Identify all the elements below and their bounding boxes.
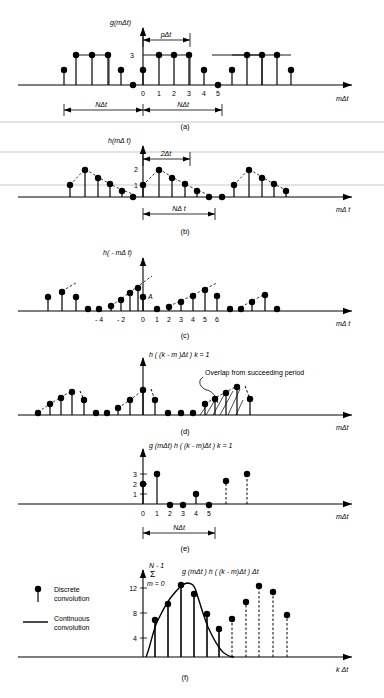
panel-a-xtick-4: 4 [202,90,206,97]
panel-e-stems [143,474,196,504]
panel-b-ytick-2: 2 [134,166,138,173]
panel-c-y-arrow [140,257,146,266]
legend-discrete-line1: Discrete [54,586,80,593]
panel-c-xtick-2: 2 [167,316,171,323]
panel-b-stems-right [234,170,286,197]
panel-e-ytick-1: 1 [133,491,137,498]
panel-f-sum-upper: N - 1 [149,562,164,569]
panel-e-caption: (e) [180,544,190,553]
panel-a-points-mid [140,52,221,88]
legend-discrete-symbol [35,586,41,602]
panel-b-points-right [231,167,289,194]
panel-c: h( - mΔ t) mΔ t A [18,249,352,340]
panel-a-xtick-3: 3 [187,90,191,97]
panel-c-xtick-1: 1 [155,316,159,323]
panel-a-dim-n-left: NΔt [64,101,143,116]
panel-a-xtick-0: 0 [141,90,145,97]
panel-c-x-arrow [343,308,352,314]
panel-b-stems-mid [143,170,197,197]
panel-e-xlabel: mΔt [336,513,350,520]
panel-b-dim-n: NΔ t [143,205,215,220]
panel-c-xtick-5: 5 [203,316,207,323]
panel-f-sum-lower: m = 0 [147,580,165,587]
panel-b-ylabel: h(mΔ t) [108,137,131,145]
panel-a-xtick-1: 1 [157,90,161,97]
panel-d-ylabel: h ( (k - m )Δt ) k = 1 [149,351,210,359]
panel-d: h ( (k - m )Δt ) k = 1 mΔt [18,351,352,436]
panel-c-xtick-m4: - 4 [95,316,103,323]
panel-a-caption: (a) [180,122,190,131]
panel-e-xtick-4: 4 [194,510,198,517]
panel-c-xtick-m2: - 2 [117,316,125,323]
panel-f-yticks: 12 8 4 [129,585,147,642]
panel-c-xlabel: mΔ t [336,320,351,327]
panel-e-xtick-2: 2 [168,510,172,517]
panel-f-expression: g (mΔt ) h ( (k - m)Δt ) Δt [182,568,260,576]
panel-e-ytick-2: 2 [133,481,137,488]
panel-a: g(mΔt) mΔt 3 [18,19,352,131]
panel-a-dim-p: pΔt [143,31,190,47]
panel-b-dim-label-2dt: 2Δt [160,150,173,157]
panel-a-ytick-3: 3 [130,52,134,59]
panel-e-xtick-1: 1 [155,510,159,517]
panel-b-points-left [67,167,136,200]
panel-f-points [152,582,290,632]
panel-e-x-arrow [343,501,352,507]
panel-b-ytick-1: 1 [134,182,138,189]
panel-c-xtick-3: 3 [179,316,183,323]
legend: Discrete convolution Continuous convolut… [23,586,90,631]
panel-c-stems-far-left [48,292,99,311]
panel-e-dim-n: NΔt [143,524,215,539]
panel-c-xtick-0: 0 [141,316,145,323]
panel-d-envelope-left [38,391,72,412]
panel-d-x-arrow [343,412,352,418]
panel-a-pulse-outline-right [212,55,262,85]
panel-a-dim-label-n-right: NΔt [177,101,190,108]
panel-c-point-zero [140,294,146,300]
panel-a-xticks: 0 1 2 3 4 5 [141,90,220,97]
panel-e-points [140,471,250,508]
panel-e-xticks: 0 1 2 3 4 5 [141,510,211,517]
legend-continuous-line2: convolution [54,624,90,631]
panel-d-stems-mid [118,390,155,415]
panel-f-stems-dashed [232,586,287,657]
panel-b-dim-label-n: NΔ t [172,205,186,212]
panel-f-caption: (f) [181,673,189,682]
panel-e-ytick-3: 3 [133,471,137,478]
panel-a-stems-left [64,55,121,85]
figure-canvas: g(mΔt) mΔt 3 [0,0,384,698]
panel-f-x-arrow [343,654,352,660]
panel-a-stems-mid [143,55,204,85]
panel-f-ytick-4: 4 [133,635,137,642]
panel-f-sum-sigma: Σ [150,569,155,579]
panel-e-xtick-3: 3 [181,510,185,517]
panel-b-x-arrow [343,194,352,200]
panel-c-xtick-6: 6 [215,316,219,323]
panel-a-ylabel: g(mΔt) [110,19,131,27]
panel-a-pulse-outline-mid [143,55,190,85]
panel-d-y-arrow [140,357,146,366]
panel-a-x-arrow [343,82,352,88]
panel-d-points-zero [165,410,196,416]
panel-e-xtick-5: 5 [207,510,211,517]
panel-d-caption: (d) [180,427,190,436]
panel-b-caption: (b) [180,227,190,236]
panel-c-caption: (c) [181,331,190,340]
panel-f-stems-solid [155,585,219,657]
panel-e-dim-label-n: NΔt [173,524,186,531]
panel-a-xlabel: mΔt [336,95,350,102]
panel-f-continuous-curve [146,583,234,657]
panel-a-xtick-5: 5 [216,90,220,97]
panel-b-points-mid [140,167,225,200]
panel-c-ylabel: h( - mΔ t) [103,249,132,257]
panel-e-y-arrow [140,448,146,457]
panel-d-envelope-overlap [205,386,237,404]
panel-c-point-label-A: A [147,293,153,300]
panel-a-stems-right [232,55,291,85]
panel-f-ytick-8: 8 [133,610,137,617]
panel-c-xticks: - 4 - 2 0 1 2 3 4 5 6 [95,316,219,323]
panel-a-points-left [61,52,136,88]
panel-f-ytick-12: 12 [129,585,137,592]
panel-f-xlabel: k Δt [336,666,349,673]
panel-e: g (mΔt) h ( (k - m)Δt ) k = 1 mΔt 3 2 1 [18,442,352,553]
